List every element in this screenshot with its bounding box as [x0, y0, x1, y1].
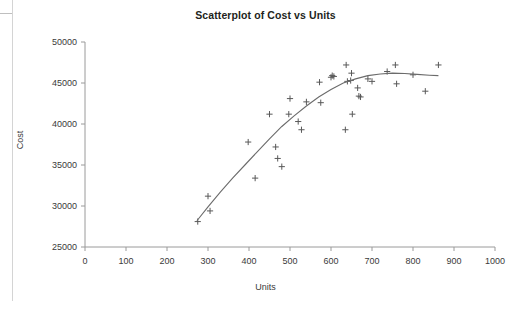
x-axis-tick-marks: [85, 247, 495, 251]
data-point: [342, 127, 348, 133]
data-point: [355, 85, 361, 91]
y-axis-tick-labels: 250003000035000400004500050000: [52, 37, 77, 252]
y-tick-label: 45000: [52, 78, 77, 88]
data-point: [348, 70, 354, 76]
data-point: [394, 81, 400, 87]
scatter-plot-svg: 250003000035000400004500050000 010020030…: [0, 0, 531, 309]
data-point: [357, 94, 363, 100]
data-point: [422, 88, 428, 94]
data-point: [328, 74, 334, 80]
data-point: [252, 175, 258, 181]
y-axis-tick-marks: [81, 42, 85, 247]
data-point: [356, 93, 362, 99]
data-point: [266, 111, 272, 117]
data-point: [329, 73, 335, 79]
data-point: [295, 118, 301, 124]
x-axis-tick-labels: 01002003004005006007008009001000: [82, 256, 505, 266]
x-tick-label: 800: [405, 256, 420, 266]
data-point: [275, 155, 281, 161]
data-point: [287, 95, 293, 101]
data-point: [343, 62, 349, 68]
y-tick-label: 40000: [52, 119, 77, 129]
x-axis-title: Units: [0, 282, 531, 292]
data-point: [286, 111, 292, 117]
data-point: [331, 73, 337, 79]
x-tick-label: 400: [241, 256, 256, 266]
data-point: [392, 62, 398, 68]
chart-container: Scatterplot of Cost vs Units 25000300003…: [0, 0, 531, 309]
x-tick-label: 1000: [485, 256, 505, 266]
y-tick-label: 35000: [52, 160, 77, 170]
y-tick-label: 30000: [52, 201, 77, 211]
x-tick-label: 500: [282, 256, 297, 266]
data-point: [316, 79, 322, 85]
data-point: [279, 164, 285, 170]
trend-curve: [197, 73, 438, 221]
y-tick-label: 50000: [52, 37, 77, 47]
cell-border-left-divider: [12, 0, 13, 301]
data-point: [435, 62, 441, 68]
data-point: [298, 127, 304, 133]
x-tick-label: 700: [364, 256, 379, 266]
x-tick-label: 200: [159, 256, 174, 266]
data-point: [349, 111, 355, 117]
chart-title: Scatterplot of Cost vs Units: [0, 9, 531, 21]
x-tick-label: 900: [446, 256, 461, 266]
data-point: [205, 193, 211, 199]
data-point: [273, 144, 279, 150]
data-point-markers: [195, 62, 442, 225]
y-axis-title: Cost: [15, 115, 25, 165]
x-tick-label: 100: [118, 256, 133, 266]
x-tick-label: 600: [323, 256, 338, 266]
x-tick-label: 300: [200, 256, 215, 266]
data-point: [207, 208, 213, 214]
y-tick-label: 25000: [52, 242, 77, 252]
data-point: [318, 100, 324, 106]
x-tick-label: 0: [82, 256, 87, 266]
data-point: [245, 139, 251, 145]
